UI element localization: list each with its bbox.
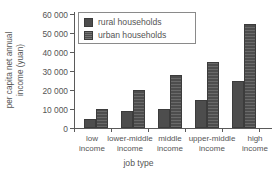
y-axis-title-line-2: income (yuan) (15, 32, 26, 108)
x-axis-label-middle-income-line-1: middle (150, 134, 190, 144)
legend-label-urban-households: urban households (98, 31, 166, 40)
y-tick-label-10000: 10 000 (42, 106, 68, 114)
y-tick-label-50000: 50 000 (42, 30, 68, 38)
bar-urban-middle-income (170, 75, 182, 128)
y-tick-label-20000: 20 000 (42, 87, 68, 95)
x-tick-1 (111, 128, 112, 132)
x-axis-label-lower-middle-income-line-2: income (105, 144, 155, 154)
bar-urban-high-income (244, 24, 256, 129)
x-tick-2 (148, 128, 149, 132)
y-tick-label-60000: 60 000 (42, 11, 68, 19)
legend-label-rural-households: rural households (98, 18, 162, 27)
bar-chart: per capita net annual income (yuan) 60 0… (0, 0, 277, 178)
x-axis-label-high-income: high income (235, 134, 275, 153)
y-tick-label-30000: 30 000 (42, 68, 68, 76)
legend: rural households urban households (78, 12, 196, 44)
x-axis-label-high-income-line-1: high (235, 134, 275, 144)
x-axis-label-lower-middle-income-line-1: lower-middle (105, 134, 155, 144)
bar-rural-low-income (84, 119, 96, 129)
x-axis-label-middle-income: middle income (150, 134, 190, 153)
x-axis-line (74, 128, 272, 129)
y-axis-title-line-1: per capita net annual (5, 32, 16, 108)
x-axis-label-upper-middle-income-line-1: upper-middle (186, 134, 238, 144)
legend-item-rural-households: rural households (84, 16, 162, 28)
bar-urban-low-income (96, 109, 108, 128)
x-axis-label-lower-middle-income: lower-middle income (105, 134, 155, 153)
x-axis-label-high-income-line-2: income (235, 144, 275, 154)
y-tick-label-0: 0 (63, 125, 68, 133)
bar-rural-high-income (232, 81, 244, 129)
bar-urban-upper-middle-income (207, 62, 219, 129)
legend-swatch-urban-icon (84, 31, 93, 40)
bar-urban-lower-middle-income (133, 90, 145, 128)
x-axis-label-middle-income-line-2: income (150, 144, 190, 154)
y-axis-title: per capita net annual income (yuan) (0, 0, 30, 140)
bar-rural-lower-middle-income (121, 111, 133, 128)
x-axis-label-upper-middle-income: upper-middle income (186, 134, 238, 153)
x-tick-4 (222, 128, 223, 132)
x-tick-0 (74, 128, 75, 132)
x-axis-label-upper-middle-income-line-2: income (186, 144, 238, 154)
legend-item-urban-households: urban households (84, 29, 166, 41)
x-axis-title: job type (0, 158, 277, 168)
bar-rural-upper-middle-income (195, 100, 207, 129)
legend-swatch-rural-icon (84, 18, 93, 27)
y-tick-label-40000: 40 000 (42, 49, 68, 57)
x-tick-3 (185, 128, 186, 132)
bar-rural-middle-income (158, 109, 170, 128)
x-tick-5 (259, 128, 260, 132)
